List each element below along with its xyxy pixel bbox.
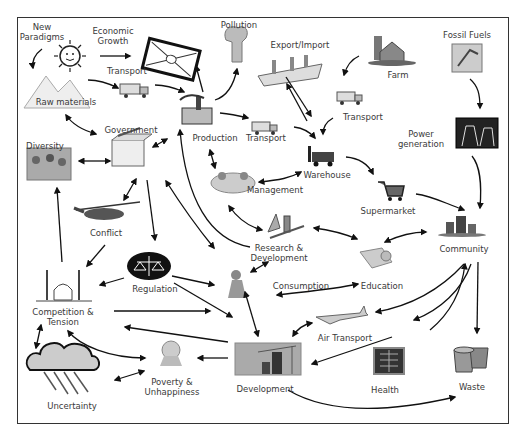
label-export-import: Export/Import <box>271 40 330 50</box>
label-education: Education <box>361 281 403 291</box>
label-research-development: Research &Development <box>250 243 307 263</box>
label-development: Development <box>236 384 293 394</box>
label-farm: Farm <box>388 70 409 80</box>
label-economic-growth: EconomicGrowth <box>92 26 133 46</box>
label-regulation: Regulation <box>132 284 177 294</box>
label-air-transport: Air Transport <box>318 333 372 343</box>
label-new-paradigms: NewParadigms <box>20 22 65 42</box>
label-diversity: Diversity <box>26 141 64 151</box>
label-health: Health <box>371 385 399 395</box>
label-pollution: Pollution <box>221 20 257 30</box>
label-fossil-fuels: Fossil Fuels <box>443 30 491 40</box>
label-power-generation: Powergeneration <box>398 129 444 149</box>
label-transport-1: Transport <box>107 66 147 76</box>
label-competition-tension: Competition &Tension <box>32 307 93 327</box>
label-warehouse: Warehouse <box>303 170 350 180</box>
label-community: Community <box>439 244 488 254</box>
diagram-frame <box>17 17 509 424</box>
label-consumption: Consumption <box>273 281 329 291</box>
label-waste: Waste <box>459 382 485 392</box>
label-raw-materials: Raw materials <box>36 97 97 107</box>
label-supermarket: Supermarket <box>361 206 416 216</box>
label-production: Production <box>192 133 237 143</box>
label-uncertainty: Uncertainty <box>47 401 97 411</box>
label-transport-3: Transport <box>343 112 383 122</box>
label-poverty-unhappiness: Poverty &Unhappiness <box>145 377 200 397</box>
label-government: Government <box>104 125 157 135</box>
label-transport-2: Transport <box>246 133 286 143</box>
label-management: Management <box>247 185 303 195</box>
label-conflict: Conflict <box>90 228 122 238</box>
